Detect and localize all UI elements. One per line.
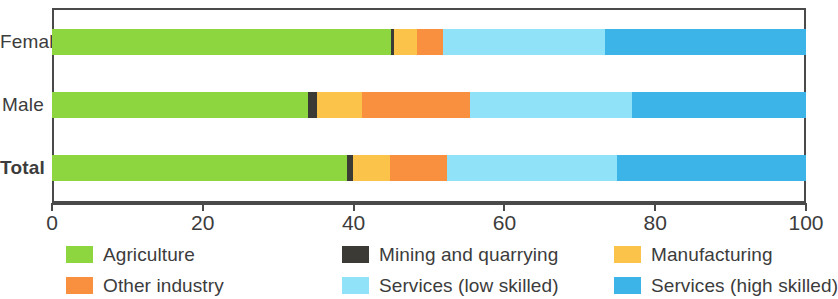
legend-swatch-icon: [342, 277, 369, 294]
bar-male: [52, 92, 806, 118]
bar-segment-services-low-skilled: [470, 92, 632, 118]
bar-total: [52, 155, 806, 181]
bar-segment-manufacturing: [394, 29, 417, 55]
bar-segment-mining-and-quarrying: [308, 92, 317, 118]
x-axis-line: [52, 203, 806, 205]
bar-segment-agriculture: [52, 92, 308, 118]
legend-item-manufacturing[interactable]: Manufacturing: [614, 240, 838, 269]
legend-item-services-low-skilled[interactable]: Services (low skilled): [342, 271, 614, 299]
x-tick-label-0: 0: [46, 211, 58, 235]
x-tick-label-80: 80: [644, 211, 667, 235]
legend-swatch-icon: [66, 277, 93, 294]
legend-item-label: Services (low skilled): [379, 275, 559, 297]
legend-item-label: Services (high skilled): [651, 275, 838, 297]
legend-item-label: Other industry: [103, 275, 224, 297]
bar-segment-manufacturing: [353, 155, 390, 181]
legend-swatch-icon: [342, 246, 369, 263]
legend-swatch-icon: [614, 246, 641, 263]
x-tick-20: [202, 203, 204, 211]
bar-segment-other-industry: [362, 92, 470, 118]
x-tick-label-20: 20: [191, 211, 214, 235]
bar-female: [52, 29, 806, 55]
bar-segment-services-high-skilled: [632, 92, 806, 118]
bar-segment-services-high-skilled: [617, 155, 806, 181]
bar-segment-other-industry: [390, 155, 447, 181]
legend-item-services-high-skilled[interactable]: Services (high skilled): [614, 271, 838, 299]
legend-item-mining-and-quarrying[interactable]: Mining and quarrying: [342, 240, 614, 269]
bar-segment-manufacturing: [317, 92, 362, 118]
bar-segment-agriculture: [52, 155, 347, 181]
x-tick-80: [654, 203, 656, 211]
x-tick-label-100: 100: [788, 211, 823, 235]
chart-legend: AgricultureMining and quarryingManufactu…: [66, 240, 816, 299]
legend-item-label: Manufacturing: [651, 244, 773, 266]
bar-segment-services-high-skilled: [605, 29, 806, 55]
category-label-male: Male: [0, 92, 44, 118]
legend-item-label: Agriculture: [103, 244, 195, 266]
category-label-text: Female: [0, 31, 44, 53]
legend-item-other-industry[interactable]: Other industry: [66, 271, 342, 299]
x-tick-40: [353, 203, 355, 211]
bar-segment-services-low-skilled: [443, 29, 605, 55]
x-tick-60: [503, 203, 505, 211]
legend-item-label: Mining and quarrying: [379, 244, 558, 266]
x-tick-100: [805, 203, 807, 211]
legend-item-agriculture[interactable]: Agriculture: [66, 240, 342, 269]
legend-swatch-icon: [614, 277, 641, 294]
category-label-total: Total: [0, 155, 44, 181]
x-tick-label-60: 60: [493, 211, 516, 235]
category-label-text: Male: [0, 94, 44, 116]
bar-segment-services-low-skilled: [447, 155, 617, 181]
x-tick-0: [51, 203, 53, 211]
category-label-female: Female: [0, 29, 44, 55]
category-label-text: Total: [0, 157, 44, 179]
bar-segment-other-industry: [417, 29, 443, 55]
x-tick-label-40: 40: [342, 211, 365, 235]
bar-segment-agriculture: [52, 29, 391, 55]
legend-swatch-icon: [66, 246, 93, 263]
